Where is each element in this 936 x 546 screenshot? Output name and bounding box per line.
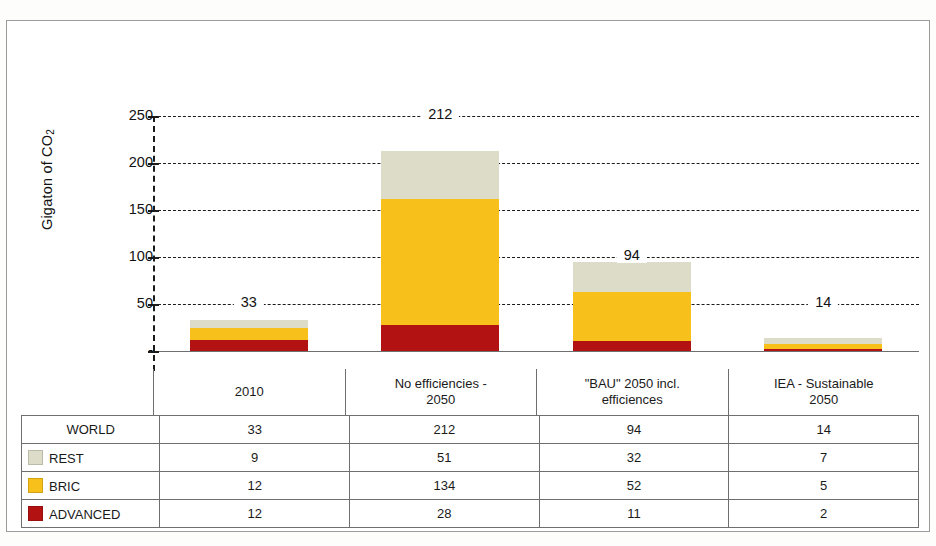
- legend-label: ADVANCED: [49, 507, 120, 522]
- bar-segment-advanced-3: [573, 341, 691, 351]
- table-header-line: "BAU" 2050 incl.: [585, 376, 680, 392]
- table-cell-bric-1: 12: [160, 472, 350, 500]
- table-cell-rest-4: 7: [729, 444, 919, 472]
- bar-total-label-4: 14: [808, 294, 838, 310]
- bar-segment-bric-3: [573, 292, 691, 341]
- table-header-line: IEA - Sustainable: [774, 376, 874, 392]
- table-cell-rest-3: 32: [539, 444, 729, 472]
- plot-area: -50100150200250 332129414: [153, 96, 919, 371]
- y-tick-label-0: -: [93, 342, 153, 358]
- table-cell-advanced-4: 2: [729, 500, 919, 528]
- bar-1: [190, 320, 308, 351]
- table-cell-world-1: 33: [160, 416, 350, 444]
- legend-swatch-rest-icon: [28, 450, 43, 465]
- gridline-50: [153, 304, 919, 305]
- table-header-1: 2010: [153, 369, 345, 415]
- bar-4: [764, 338, 882, 351]
- table-row: BRIC12134525: [22, 472, 919, 500]
- table-row-label-advanced: ADVANCED: [22, 500, 160, 528]
- table-cell-rest-1: 9: [160, 444, 350, 472]
- chart-plot-region: Gigaton of CO2 -50100150200250 332129414: [7, 21, 931, 369]
- table-row-label-rest: REST: [22, 444, 160, 472]
- table-cell-bric-2: 134: [349, 472, 539, 500]
- bar-total-label-1: 33: [234, 294, 264, 310]
- bar-segment-advanced-4: [764, 349, 882, 351]
- legend-swatch-advanced-icon: [28, 506, 43, 521]
- table-header-2: No efficiencies -2050: [345, 369, 537, 415]
- bar-segment-rest-4: [764, 338, 882, 345]
- table-cell-advanced-3: 11: [539, 500, 729, 528]
- table-row: ADVANCED1228112: [22, 500, 919, 528]
- bar-segment-bric-1: [190, 328, 308, 339]
- table-cell-rest-2: 51: [349, 444, 539, 472]
- table-header-4: IEA - Sustainable2050: [728, 369, 920, 415]
- y-axis-line: [153, 116, 155, 371]
- gridline-100: [153, 257, 919, 258]
- table-header-corner: [21, 369, 153, 415]
- table-row: WORLD332129414: [22, 416, 919, 444]
- y-axis-title-text: Gigaton of CO: [39, 135, 55, 230]
- table-cell-world-3: 94: [539, 416, 729, 444]
- y-tick-label-200: 200: [93, 154, 153, 170]
- bar-segment-bric-2: [381, 199, 499, 325]
- table-cell-world-4: 14: [729, 416, 919, 444]
- chart-frame: Gigaton of CO2 -50100150200250 332129414…: [6, 20, 930, 532]
- table-body: WORLD332129414REST951327BRIC12134525ADVA…: [21, 415, 919, 528]
- table-header-line: 2050: [774, 392, 874, 408]
- table-cell-world-2: 212: [349, 416, 539, 444]
- table-header-3: "BAU" 2050 incl.efficiences: [536, 369, 728, 415]
- table-header-line: efficiences: [585, 392, 680, 408]
- table-cell-advanced-1: 12: [160, 500, 350, 528]
- bar-2: [381, 151, 499, 351]
- x-axis-baseline: [153, 351, 919, 352]
- y-tick-label-50: 50: [93, 295, 153, 311]
- table-header-line: 2010: [235, 384, 264, 400]
- y-tick-label-250: 250: [93, 107, 153, 123]
- bar-segment-rest-2: [381, 151, 499, 199]
- gridline-200: [153, 163, 919, 164]
- y-tick-label-100: 100: [93, 248, 153, 264]
- bar-segment-advanced-2: [381, 325, 499, 351]
- table-header-row: 2010No efficiencies -2050"BAU" 2050 incl…: [7, 369, 931, 415]
- table-row: REST951327: [22, 444, 919, 472]
- table-header-line: No efficiencies -: [395, 376, 487, 392]
- legend-label: BRIC: [49, 479, 80, 494]
- y-tick-label-150: 150: [93, 201, 153, 217]
- table-cell-advanced-2: 28: [349, 500, 539, 528]
- bar-total-label-3: 94: [617, 247, 647, 263]
- table-row-label-world: WORLD: [22, 416, 160, 444]
- table-cell-bric-4: 5: [729, 472, 919, 500]
- bar-segment-rest-1: [190, 320, 308, 328]
- table-header-line: 2050: [395, 392, 487, 408]
- data-table: 2010No efficiencies -2050"BAU" 2050 incl…: [7, 369, 931, 533]
- bar-segment-advanced-1: [190, 340, 308, 351]
- table-cell-bric-3: 52: [539, 472, 729, 500]
- legend-label: WORLD: [66, 422, 114, 437]
- table-row-label-bric: BRIC: [22, 472, 160, 500]
- gridline-150: [153, 210, 919, 211]
- legend-label: REST: [49, 451, 84, 466]
- bar-segment-rest-3: [573, 262, 691, 292]
- bar-3: [573, 262, 691, 351]
- legend-swatch-bric-icon: [28, 478, 43, 493]
- y-axis-title: Gigaton of CO2: [39, 80, 56, 280]
- gridline-250: [153, 116, 919, 117]
- y-axis-title-subscript: 2: [45, 129, 56, 135]
- bar-total-label-2: 212: [421, 106, 459, 122]
